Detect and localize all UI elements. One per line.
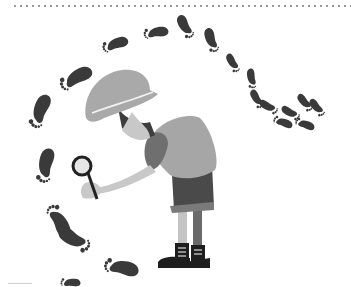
caption-rule [8, 283, 32, 284]
explorer-illustration [0, 0, 351, 287]
explorer-figure [73, 70, 217, 268]
